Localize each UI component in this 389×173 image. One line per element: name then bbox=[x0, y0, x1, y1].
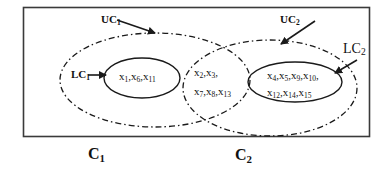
uc1-arrow bbox=[117, 20, 155, 33]
cluster-c1-title: C1 bbox=[88, 146, 105, 164]
uc2-label: UC2 bbox=[280, 14, 300, 26]
lc1-label: LC1 bbox=[71, 69, 90, 81]
cluster-c2-title: C2 bbox=[235, 147, 252, 165]
uc1-label: UC1 bbox=[101, 14, 121, 26]
boundary-members-line2: x7,x8,x13 bbox=[194, 86, 231, 98]
c2-lower-members-line2: x12,x14,x15 bbox=[267, 87, 311, 99]
lc2-label: LC2 bbox=[343, 42, 366, 58]
c2-lower-members-line1: x4,x5,x9,x10, bbox=[267, 70, 319, 82]
c1-lower-members: x1,x6,x11 bbox=[119, 71, 156, 83]
lc2-arrow bbox=[335, 60, 357, 73]
boundary-members-line1: x2,x3, bbox=[194, 67, 218, 79]
